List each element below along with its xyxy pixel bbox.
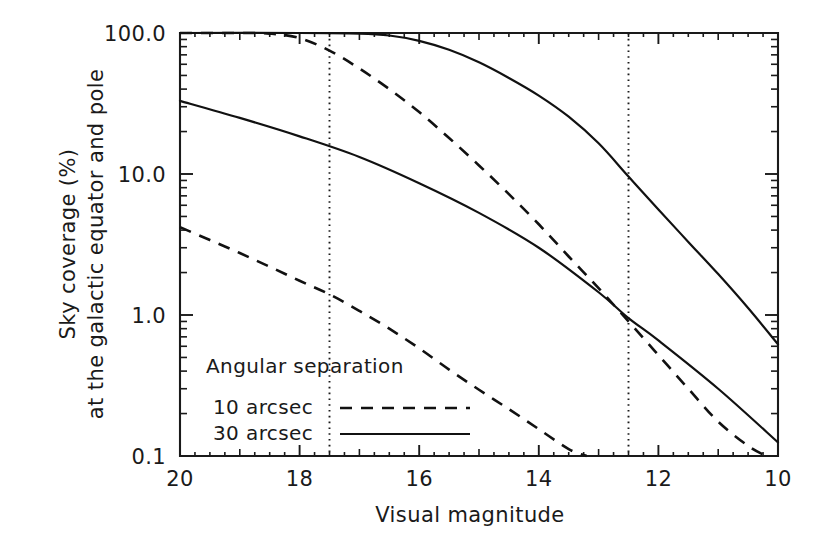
x-axis-title: Visual magnitude xyxy=(375,503,564,527)
x-tick-label: 16 xyxy=(405,467,433,491)
y-axis-title-line1: Sky coverage (%) xyxy=(56,149,80,340)
x-tick-label: 14 xyxy=(525,467,553,491)
legend-label-30-arcsec: 30 arcsec xyxy=(213,421,313,445)
y-tick-label: 0.1 xyxy=(131,445,166,469)
legend-label-10-arcsec: 10 arcsec xyxy=(213,395,313,419)
y-tick-label: 100.0 xyxy=(104,22,166,46)
x-tick-label: 18 xyxy=(286,467,314,491)
legend-title: Angular separation xyxy=(206,354,404,378)
figure-container: 201816141210 100.010.01.00.1 Visual magn… xyxy=(0,0,827,551)
x-tick-label: 20 xyxy=(166,467,194,491)
x-tick-label: 12 xyxy=(645,467,673,491)
y-tick-label: 1.0 xyxy=(131,304,166,328)
sky-coverage-chart: 201816141210 100.010.01.00.1 Visual magn… xyxy=(0,0,827,551)
y-axis-title-line2: at the galactic equator and pole xyxy=(84,69,108,419)
y-tick-label: 10.0 xyxy=(118,163,166,187)
x-tick-label: 10 xyxy=(764,467,792,491)
